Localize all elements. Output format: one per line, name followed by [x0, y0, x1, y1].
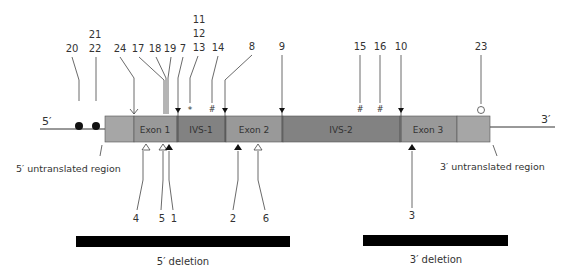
mut-label-3: 3 [409, 210, 415, 221]
mut-label-17: 17 [132, 43, 145, 54]
open-circle-icon [478, 107, 485, 114]
mut-label-16: 16 [374, 41, 387, 52]
utr5-label: 5′ untranslated region [16, 163, 121, 174]
mut-label-7: 7 [180, 43, 186, 54]
mut-label-4: 4 [133, 213, 139, 224]
open-triangle-icon [254, 144, 262, 150]
deletion-5-label: 5′ deletion [157, 256, 209, 267]
label-exon-2: Exon 2 [239, 125, 270, 135]
deletion-3-label: 3′ deletion [410, 254, 462, 265]
mut-label-19: 19 [164, 43, 177, 54]
utr3-label: 3′ untranslated region [440, 161, 545, 172]
deletion-3-bar [363, 235, 508, 246]
hash-icon: # [209, 105, 216, 114]
filled-triangle-icon [234, 144, 242, 150]
mut-label-10: 10 [395, 41, 408, 52]
filled-circle-icon [92, 122, 100, 130]
mut-label-20: 20 [66, 43, 79, 54]
mut-label-21: 21 [89, 29, 102, 40]
mut-label-11: 11 [193, 14, 206, 25]
mut-label-9: 9 [279, 41, 285, 52]
mut-label-22: 22 [89, 43, 102, 54]
gene-diagram: 5′ 3′ Exon 1 IVS-1 Exon 2 IVS-2 Exon 3 2… [0, 0, 569, 279]
mut-label-1: 1 [171, 213, 177, 224]
mut-label-23: 23 [475, 41, 488, 52]
gene-bar: Exon 1 IVS-1 Exon 2 IVS-2 Exon 3 [105, 116, 490, 142]
label-ivs-1: IVS-1 [189, 125, 213, 135]
mut-label-24: 24 [114, 43, 127, 54]
down-arrow-icon [175, 108, 181, 113]
open-triangle-icon [142, 144, 150, 150]
hash-icon: # [377, 105, 384, 114]
label-exon-3: Exon 3 [413, 125, 444, 135]
label-exon-1: Exon 1 [140, 125, 171, 135]
down-arrow-icon [279, 108, 285, 113]
strand-5-label: 5′ [42, 115, 52, 128]
mut-label-13: 13 [193, 42, 206, 53]
deletion-5-bar [76, 236, 290, 247]
mut-label-2: 2 [230, 213, 236, 224]
filled-circle-icon [75, 122, 83, 130]
bottom-mutation-labels: 4 5 1 2 6 3 [133, 210, 415, 224]
mut-label-12: 12 [193, 28, 206, 39]
top-mutation-labels: 20 21 22 24 17 18 19 7 11 12 13 14 8 9 1… [66, 14, 488, 54]
mut-label-15: 15 [354, 41, 367, 52]
strand-3-label: 3′ [541, 113, 551, 126]
segment-5utr [105, 116, 134, 142]
bottom-markers [142, 144, 416, 150]
asterisk-icon: * [188, 105, 193, 115]
segment-3utr [457, 116, 490, 142]
filled-triangle-icon [408, 144, 416, 150]
bottom-leader-lines [100, 145, 497, 210]
mut-label-6: 6 [263, 213, 269, 224]
mut-label-8: 8 [249, 41, 255, 52]
label-ivs-2: IVS-2 [329, 125, 353, 135]
mut-label-18: 18 [149, 43, 162, 54]
hash-icon: # [357, 105, 364, 114]
down-arrow-icon [222, 108, 228, 113]
mut-label-5: 5 [159, 213, 165, 224]
filled-triangle-icon [165, 144, 173, 150]
mut-label-14: 14 [212, 42, 225, 53]
down-arrow-icon [398, 108, 404, 113]
